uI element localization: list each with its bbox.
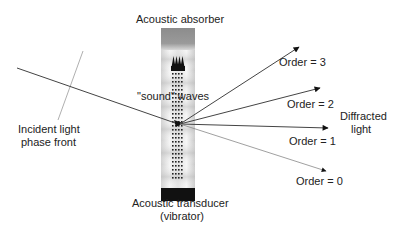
order-0-label: Order = 0	[296, 175, 343, 187]
order-1-ray	[180, 124, 328, 128]
transducer-label-line1: Acoustic transducer	[132, 197, 229, 209]
transducer-label-line2: (vibrator)	[160, 210, 204, 222]
acousto-optic-diagram: Acoustic absorber "sound" waves Incident…	[0, 0, 401, 235]
absorber-label: Acoustic absorber	[136, 13, 224, 25]
sound-waves-label: "sound" waves	[137, 90, 210, 102]
order-1-label: Order = 1	[289, 135, 336, 147]
order-3-label: Order = 3	[279, 56, 326, 68]
incident-label-line2: phase front	[21, 136, 76, 148]
order-0-ray	[180, 124, 326, 171]
order-2-label: Order = 2	[287, 98, 334, 110]
diffracted-label-line1: Diffracted	[340, 110, 387, 122]
absorber-block	[161, 28, 195, 50]
diffracted-label-line2: light	[351, 123, 371, 135]
phase-front-line	[58, 51, 83, 120]
acousto-optic-crystal	[161, 28, 195, 201]
incident-label-line1: Incident light	[18, 123, 80, 135]
